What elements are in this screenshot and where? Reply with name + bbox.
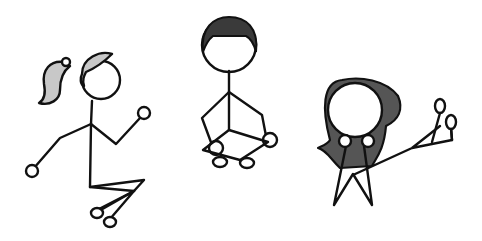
right-arm: [91, 118, 140, 144]
body: [90, 101, 92, 187]
left-arm: [34, 124, 91, 168]
stick-figures-illustration: [0, 0, 482, 241]
left-hand: [26, 165, 38, 177]
figure-boy-sitting: [202, 17, 277, 168]
right-foot: [104, 217, 116, 227]
figure-girl-ponytail: [26, 53, 150, 227]
left-foot: [213, 157, 227, 167]
left-arm: [202, 92, 229, 145]
head: [328, 83, 382, 137]
right-foot: [240, 158, 254, 168]
legs: [90, 180, 144, 191]
hair-tie: [62, 58, 70, 66]
finger-1: [435, 99, 445, 113]
left-hand: [339, 135, 351, 147]
right-arm: [229, 92, 266, 136]
figure-hooded-reaching: [318, 79, 456, 205]
ponytail-hair: [39, 62, 70, 104]
left-foot: [91, 208, 103, 218]
right-hand: [362, 135, 374, 147]
right-hand: [138, 107, 150, 119]
finger-2: [446, 115, 456, 129]
